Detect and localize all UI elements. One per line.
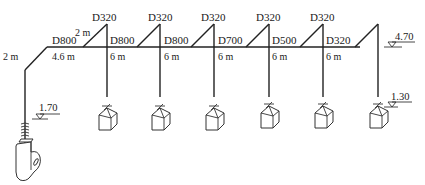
riser-diameter-label-2: D320 bbox=[148, 11, 173, 23]
branch-4 bbox=[246, 24, 269, 97]
hood-icon bbox=[152, 104, 170, 130]
main-diameter-label-6: D320 bbox=[326, 34, 351, 46]
first-segment-length-label: 4.6 m bbox=[52, 51, 75, 62]
svg-text:1.70: 1.70 bbox=[39, 102, 57, 113]
riser-diameter-label-3: D320 bbox=[201, 11, 226, 23]
branch-6 bbox=[355, 24, 378, 97]
hood-icon bbox=[206, 104, 224, 130]
hood-icon bbox=[261, 102, 279, 128]
elevation-marker-hood: 1.30 bbox=[384, 91, 412, 107]
drop-length-label-2: 6 m bbox=[164, 51, 180, 62]
elevation-marker-fan: 1.70 bbox=[32, 102, 60, 119]
drop-length-label-3: 6 m bbox=[218, 51, 234, 62]
fan-icon bbox=[16, 123, 40, 181]
duct-diagram: 2 m D800 4.6 m 2 m D320 D320 D320 D320 D… bbox=[0, 0, 425, 185]
hood-icon bbox=[315, 102, 333, 128]
main-duct bbox=[25, 47, 360, 150]
inlet-length-label: 2 m bbox=[3, 51, 19, 62]
drop-length-label-1: 6 m bbox=[110, 51, 126, 62]
first-riser-length-label: 2 m bbox=[75, 27, 91, 38]
riser-diameter-label-4: D320 bbox=[256, 11, 281, 23]
riser-diameter-label-1: D320 bbox=[92, 11, 117, 23]
first-segment-diameter-label: D800 bbox=[52, 34, 77, 46]
svg-text:4.70: 4.70 bbox=[395, 31, 413, 42]
branch-3 bbox=[191, 24, 214, 97]
branch-2 bbox=[137, 24, 160, 97]
drop-length-label-5: 6 m bbox=[326, 51, 342, 62]
main-diameter-label-5: D500 bbox=[272, 34, 297, 46]
hood-icon bbox=[370, 102, 388, 128]
main-diameter-label-3: D800 bbox=[164, 34, 189, 46]
elevation-marker-main: 4.70 bbox=[384, 31, 415, 47]
branch-5 bbox=[300, 24, 323, 97]
svg-text:1.30: 1.30 bbox=[391, 91, 409, 102]
hood-icon bbox=[99, 104, 117, 130]
main-diameter-label-4: D700 bbox=[218, 34, 243, 46]
riser-diameter-label-5: D320 bbox=[310, 11, 335, 23]
drop-length-label-4: 6 m bbox=[272, 51, 288, 62]
main-diameter-label-2: D800 bbox=[110, 34, 135, 46]
